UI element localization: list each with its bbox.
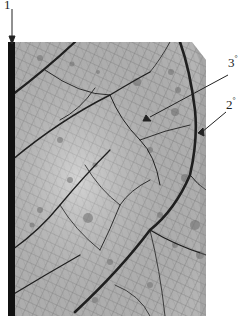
leaf-photo [0, 0, 247, 322]
label-primary-vein: 1 [4, 0, 11, 11]
label-tertiary-vein: 3° [228, 56, 238, 69]
leaf-venation-figure: 1 3° 2° [0, 0, 247, 322]
label-secondary-vein: 2° [226, 98, 236, 111]
